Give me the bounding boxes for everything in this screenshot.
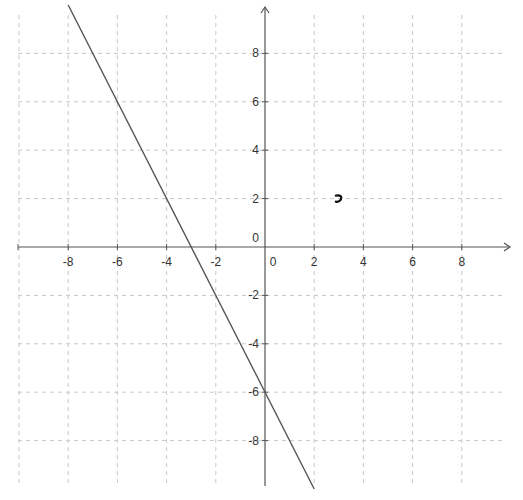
y-tick-label: 6 (252, 95, 259, 109)
axes (18, 7, 510, 486)
y-tick-label-zero: 0 (252, 231, 259, 245)
y-tick-label: -2 (248, 288, 259, 302)
x-tick-label: -4 (161, 255, 172, 269)
grid-lines (18, 15, 502, 486)
x-tick-label: 4 (360, 255, 367, 269)
x-tick-label: -6 (112, 255, 123, 269)
x-tick-label: 2 (311, 255, 318, 269)
x-tick-label: -8 (63, 255, 74, 269)
y-tick-label: -4 (248, 337, 259, 351)
y-tick-label: -8 (248, 434, 259, 448)
x-tick-label-zero: 0 (270, 255, 277, 269)
y-tick-label: -6 (248, 385, 259, 399)
y-tick-label: 8 (252, 46, 259, 60)
coordinate-plane: -8-6-4-224680-8-6-4-224680 (0, 0, 523, 500)
x-tick-label: 6 (409, 255, 416, 269)
y-tick-label: 2 (252, 192, 259, 206)
x-tick-label: -2 (210, 255, 221, 269)
y-tick-label: 4 (252, 143, 259, 157)
x-tick-label: 8 (458, 255, 465, 269)
